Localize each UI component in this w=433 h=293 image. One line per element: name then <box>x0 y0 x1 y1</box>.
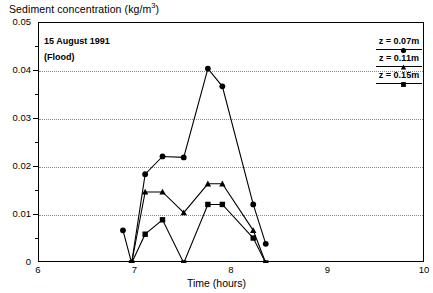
series-line <box>132 204 266 263</box>
data-point <box>250 227 256 233</box>
series-circle <box>120 66 269 263</box>
data-point <box>263 241 269 247</box>
data-point <box>205 66 211 72</box>
data-point <box>181 260 186 263</box>
data-point <box>219 83 225 89</box>
annotation-condition: (Flood) <box>44 52 75 62</box>
series-square <box>129 202 269 263</box>
series-line <box>132 184 266 263</box>
x-tick-label: 6 <box>23 264 53 275</box>
legend-item-z-007: z = 0.07m <box>368 36 430 53</box>
chart-figure: Sediment concentration (kg/m3) 00.010.02… <box>0 0 433 293</box>
data-point <box>250 202 256 208</box>
data-point <box>160 154 166 160</box>
data-point <box>142 171 148 177</box>
series-triangle <box>128 181 269 263</box>
chart-title: Sediment concentration (kg/m3) <box>9 1 159 15</box>
annotation-date: 15 August 1991 <box>44 36 110 46</box>
legend-swatch-z-011 <box>368 63 430 70</box>
x-tick-label: 7 <box>120 264 150 275</box>
data-point <box>120 227 126 233</box>
x-axis-label: Time (hours) <box>0 277 433 289</box>
legend-label-z-011: z = 0.11m <box>368 53 430 63</box>
data-point <box>263 260 268 263</box>
chart-title-main: Sediment concentration (kg/m <box>9 3 151 15</box>
legend-swatch-z-007 <box>368 46 430 53</box>
data-point <box>142 232 147 237</box>
plot-area <box>38 22 424 262</box>
legend-label-z-007: z = 0.07m <box>368 36 430 46</box>
data-point <box>181 155 187 161</box>
data-point <box>129 260 134 263</box>
x-tick-label: 8 <box>216 264 246 275</box>
y-tick-label: 0.05 <box>0 16 39 27</box>
legend-item-z-015: z = 0.15m <box>368 70 430 87</box>
legend-label-z-015: z = 0.15m <box>368 70 430 80</box>
legend-item-z-011: z = 0.11m <box>368 53 430 70</box>
data-point <box>251 235 256 240</box>
data-point <box>160 217 165 222</box>
legend-swatch-z-015 <box>368 80 430 87</box>
data-point <box>205 202 210 207</box>
x-tick-label: 10 <box>409 264 433 275</box>
data-point <box>220 202 225 207</box>
chart-title-tail: ) <box>156 3 160 15</box>
x-tick-label: 9 <box>313 264 343 275</box>
